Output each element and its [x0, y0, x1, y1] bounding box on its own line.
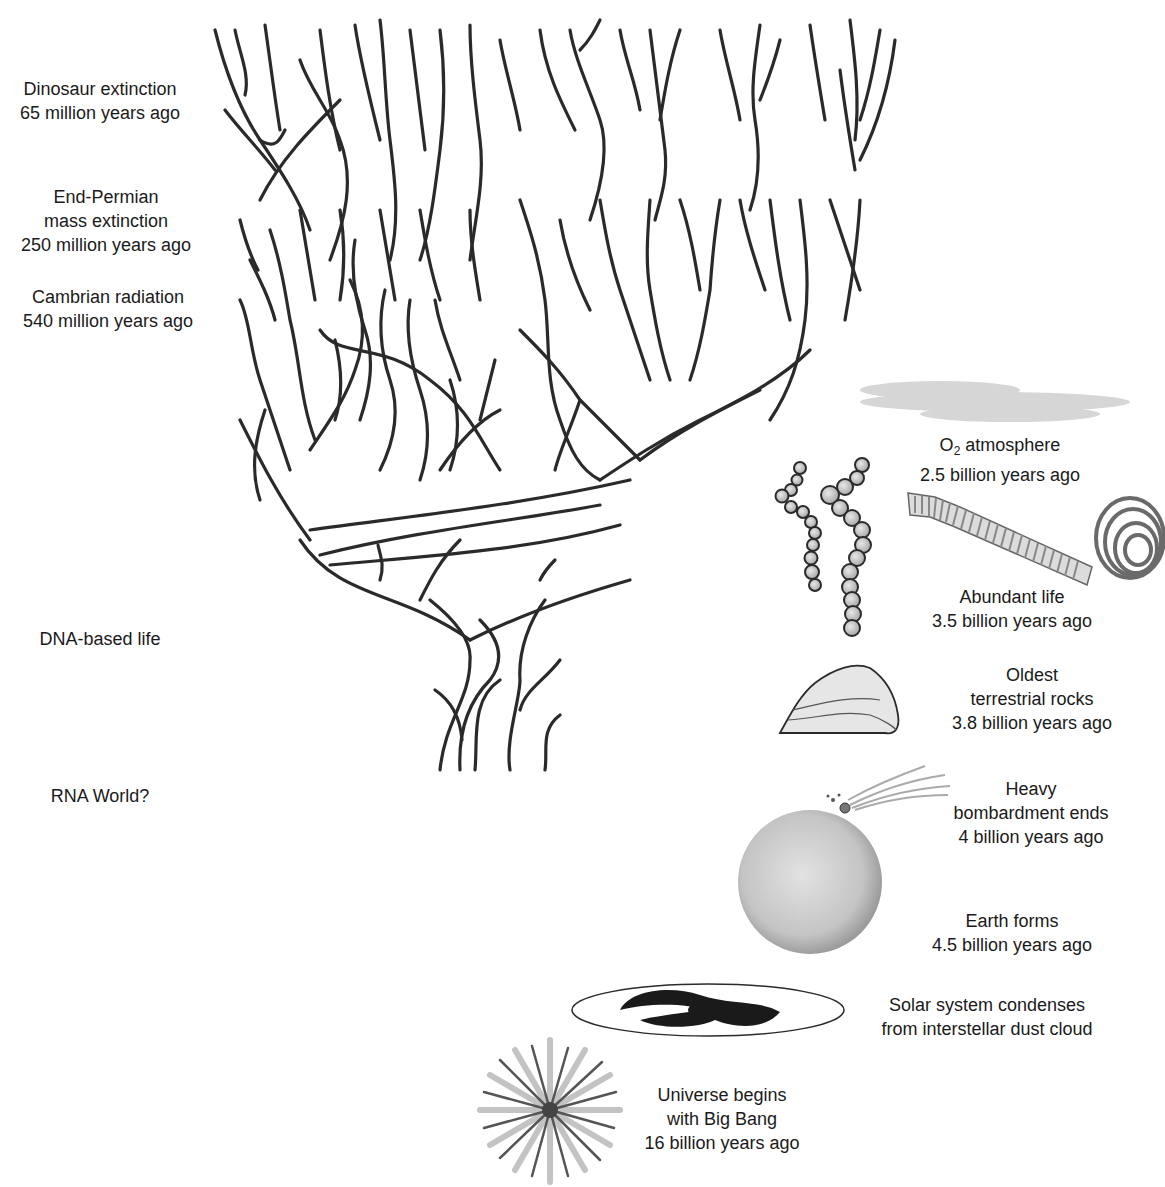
- label-dna-based-life: DNA-based life: [0, 627, 200, 651]
- label-earth-forms: Earth forms 4.5 billion years ago: [892, 909, 1132, 957]
- oxygen-cloud-icon: [860, 381, 1130, 422]
- tree-of-life-icon: [215, 20, 895, 770]
- rock-icon: [780, 666, 898, 734]
- label-end-permian: End-Permian mass extinction 250 million …: [0, 185, 212, 257]
- big-bang-icon: [480, 1040, 620, 1182]
- label-heavy-bombardment: Heavy bombardment ends 4 billion years a…: [911, 777, 1151, 849]
- earth-icon: [738, 810, 882, 954]
- spiral-icon: [1096, 498, 1164, 578]
- label-big-bang: Universe begins with Big Bang 16 billion…: [602, 1083, 842, 1155]
- label-solar-system: Solar system condenses from interstellar…: [847, 993, 1127, 1041]
- galaxy-icon: [572, 984, 844, 1036]
- label-oldest-rocks: Oldest terrestrial rocks 3.8 billion yea…: [912, 663, 1152, 735]
- bacteria-chain-icon: [776, 458, 872, 636]
- label-rna-world: RNA World?: [0, 784, 200, 808]
- label-oxygen-atmosphere: O2 atmosphere 2.5 billion years ago: [880, 433, 1120, 487]
- filament-icon: [908, 493, 1092, 585]
- label-abundant-life: Abundant life 3.5 billion years ago: [892, 585, 1132, 633]
- label-dinosaur-extinction: Dinosaur extinction 65 million years ago: [0, 77, 200, 125]
- label-cambrian-radiation: Cambrian radiation 540 million years ago: [0, 285, 216, 333]
